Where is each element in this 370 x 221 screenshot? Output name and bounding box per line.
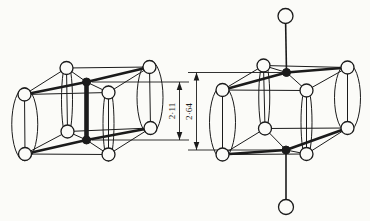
chain-bond-line xyxy=(286,16,287,73)
thick-bond-line xyxy=(25,140,87,154)
cell-edge-line xyxy=(264,66,348,68)
left-unit-cell xyxy=(12,61,163,162)
atom-circle xyxy=(259,122,272,135)
dimension-arrowhead xyxy=(194,142,200,150)
cell-edge-line xyxy=(223,129,266,155)
atom-circle xyxy=(300,148,313,161)
center-atom-circle xyxy=(282,146,290,154)
crystal-structures-figure: 2·112·64 xyxy=(0,0,370,221)
center-atom-circle xyxy=(83,136,91,144)
dimension-arrowhead xyxy=(177,82,183,90)
cell-edge-line xyxy=(150,67,151,128)
atom-circle xyxy=(216,148,229,161)
dimension-arrowhead xyxy=(177,132,183,140)
atom-circle xyxy=(279,200,294,215)
atom-circle xyxy=(257,59,270,72)
atom-circle xyxy=(300,84,313,97)
cell-edge-line xyxy=(25,95,26,155)
dimension-arrowhead xyxy=(194,73,200,81)
atom-circle xyxy=(216,84,229,97)
cell-edge-line xyxy=(223,66,264,91)
atom-circle xyxy=(102,148,115,161)
cell-edge-line xyxy=(25,154,109,155)
thick-bond-line xyxy=(223,73,287,91)
cell-edge-line xyxy=(264,66,266,129)
cell-edge-line xyxy=(67,68,68,132)
right-unit-cell xyxy=(210,9,361,215)
dimension-label: 2·64 xyxy=(184,103,194,120)
atom-circle xyxy=(19,148,32,161)
cell-edge-line xyxy=(25,132,68,155)
atom-circle xyxy=(144,122,157,135)
cell-edge-line xyxy=(67,67,150,68)
atom-circle xyxy=(341,61,354,74)
atom-circle xyxy=(278,9,293,24)
thick-bond-line xyxy=(287,68,348,73)
atom-circle xyxy=(61,125,74,138)
atom-circle xyxy=(18,88,31,101)
atom-circle xyxy=(143,61,156,74)
figure-page: 2·112·64 xyxy=(0,0,370,221)
atom-circle xyxy=(341,122,354,135)
center-atom-circle xyxy=(83,78,91,86)
atom-circle xyxy=(102,86,115,99)
center-atom-circle xyxy=(283,69,291,77)
dimension-label: 2·11 xyxy=(167,102,177,119)
atom-circle xyxy=(60,62,73,75)
thick-bond-line xyxy=(286,128,348,150)
